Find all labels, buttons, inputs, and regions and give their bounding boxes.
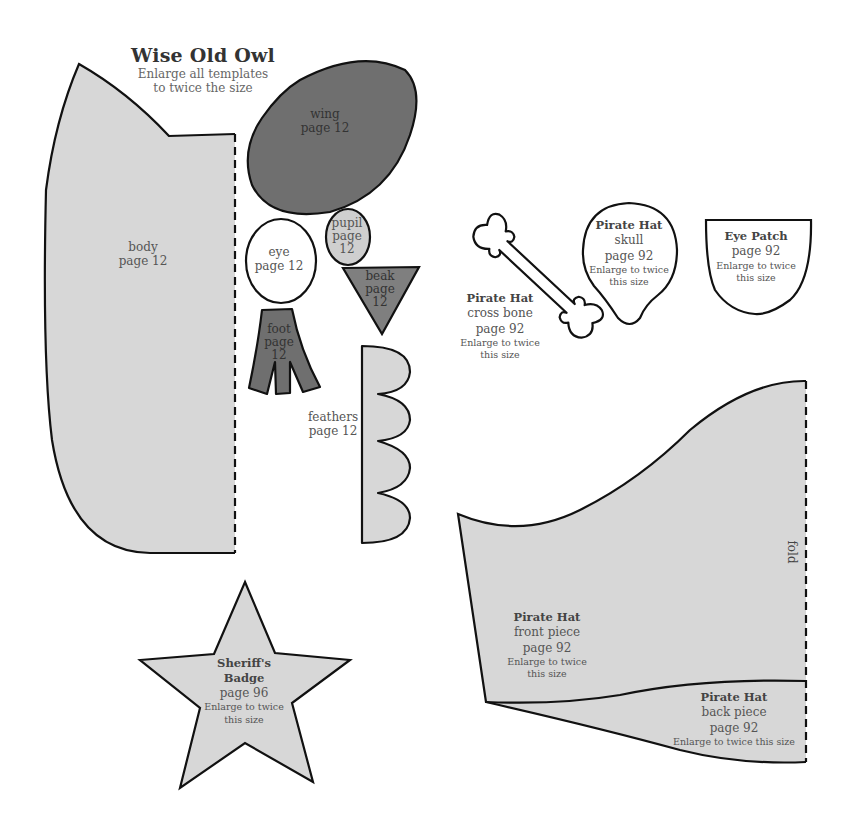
wing-label: wing page 12 xyxy=(301,107,350,136)
hat-front-label: Pirate Hat front piece page 92 Enlarge t… xyxy=(507,610,587,681)
eye-patch-label: Eye Patch page 92 Enlarge to twice this … xyxy=(716,229,796,284)
eye-label: eye page 12 xyxy=(255,245,304,274)
pupil-label: pupil page 12 xyxy=(332,217,363,256)
beak-label: beak page 12 xyxy=(365,270,395,309)
owl-body-shape xyxy=(45,64,235,553)
fold-label: fold xyxy=(785,540,799,563)
cross-bone-label: Pirate Hat cross bone page 92 Enlarge to… xyxy=(460,291,540,362)
owl-feathers-shape xyxy=(362,346,410,543)
header-subtitle-line2: to twice the size xyxy=(131,81,275,95)
header-subtitle-line1: Enlarge all templates xyxy=(131,67,275,81)
feathers-label: feathers page 12 xyxy=(308,410,358,439)
page-title: Wise Old Owl xyxy=(131,44,275,67)
sheriff-badge-label: Sheriff's Badge page 96 Enlarge to twice… xyxy=(204,656,284,726)
body-label: body page 12 xyxy=(119,240,168,269)
foot-label: foot page 12 xyxy=(264,323,294,362)
hat-back-label: Pirate Hat back piece page 92 Enlarge to… xyxy=(673,690,795,748)
skull-label: Pirate Hat skull page 92 Enlarge to twic… xyxy=(589,218,669,289)
header-block: Wise Old Owl Enlarge all templates to tw… xyxy=(131,44,275,96)
